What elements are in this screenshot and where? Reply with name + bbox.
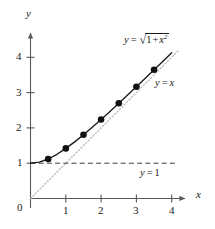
- radicand: 1+x2: [145, 33, 168, 46]
- x-tick-label-3: 3: [133, 205, 139, 216]
- origin-tick-label: 0: [17, 202, 23, 213]
- curve-sqrt-1-plus-x-squared: [31, 53, 172, 163]
- asymptote-label-lhs: y: [155, 77, 160, 88]
- data-point: [151, 67, 158, 74]
- asymptote-label-equals: =: [162, 77, 168, 88]
- math-figure: 0 1 2 3 4 1 2 3 4 y x y=√1+x2 y=x y=1: [0, 0, 215, 229]
- horizontal-line-label: y=1: [140, 168, 160, 179]
- plot-canvas: [0, 0, 215, 229]
- data-point: [133, 83, 140, 90]
- y-tick-label-1: 1: [17, 157, 23, 168]
- y-tick-label-4: 4: [16, 51, 22, 62]
- asymptote-label: y=x: [155, 78, 174, 89]
- y-tick-label-3: 3: [16, 87, 22, 98]
- radicand-plus: +: [152, 34, 158, 45]
- radicand-exponent: 2: [164, 33, 168, 41]
- asymptote-label-rhs: x: [170, 77, 175, 88]
- data-point: [80, 132, 87, 139]
- data-point: [63, 145, 70, 152]
- x-tick-label-4: 4: [169, 205, 175, 216]
- y-axis-name: y: [26, 8, 31, 19]
- data-point: [45, 156, 52, 163]
- sample-point-markers: [45, 67, 158, 163]
- x-tick-label-2: 2: [98, 205, 104, 216]
- x-tick-label-1: 1: [63, 205, 69, 216]
- curve-equation-label: y=√1+x2: [124, 33, 169, 46]
- x-axis-name: x: [196, 189, 201, 200]
- radicand-one: 1: [146, 34, 151, 45]
- horizontal-label-equals: =: [147, 167, 153, 178]
- square-root-expression: √1+x2: [139, 33, 169, 46]
- data-point: [98, 116, 105, 123]
- y-tick-label-2: 2: [16, 122, 22, 133]
- horizontal-label-rhs: 1: [155, 167, 160, 178]
- curve-equation-equals: =: [131, 34, 137, 45]
- curve-equation-lhs: y: [124, 34, 129, 45]
- horizontal-label-lhs: y: [140, 167, 145, 178]
- data-point: [116, 100, 123, 107]
